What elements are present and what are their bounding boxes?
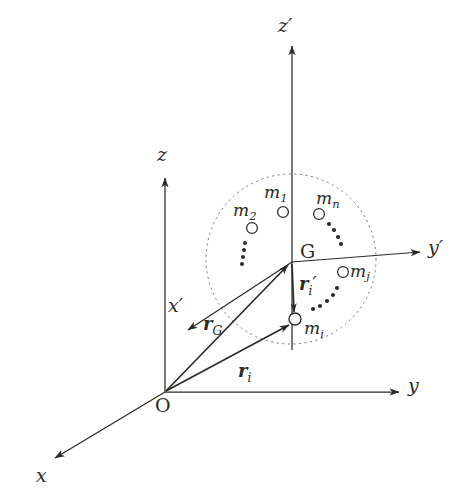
mass-label-mn: mn	[316, 190, 340, 211]
vector-label-r-G: rG	[203, 315, 222, 337]
ellipsis-vertical-left	[240, 241, 247, 266]
axis-label-x-prime-mark: ′	[179, 294, 183, 316]
axis-label-z-prime-mark: ′	[288, 14, 292, 36]
mass-label-mj: mj	[350, 263, 370, 280]
vector-label-r-G-sub: G	[212, 324, 222, 338]
mass-label-m1: m1	[264, 184, 287, 205]
axis-label-z-prime: z′	[278, 16, 292, 35]
vector-label-r-i-prime: ri′	[299, 275, 317, 297]
vector-label-r-i-prime-mark: ′	[312, 273, 316, 294]
axis-label-y: y	[408, 376, 419, 395]
mass-label-mn-sub: n	[332, 197, 339, 211]
mass-label-mj-sub: j	[366, 269, 370, 283]
axis-x	[55, 392, 165, 458]
mass-label-mi-base: m	[304, 318, 320, 338]
vector-r-G	[166, 265, 288, 391]
axis-label-z: z	[157, 145, 167, 164]
mass-label-m2: m2	[233, 202, 256, 223]
vector-label-r-i-sub: i	[247, 371, 251, 385]
axis-label-x: x	[36, 466, 47, 485]
vector-r-i	[166, 325, 289, 391]
mass-label-m1-sub: 1	[280, 191, 287, 205]
axis-label-y-prime-mark: ′	[439, 236, 443, 258]
point-label-center-of-mass: G	[300, 242, 315, 261]
axis-label-x-prime: x′	[168, 296, 183, 315]
axis-label-z-prime-base: z	[278, 14, 288, 36]
physics-diagram-figure: z y x z′ y′ x′ O G m1 m2 mn mj mi rG ri …	[0, 0, 471, 499]
mass-label-mi: mi	[304, 320, 324, 341]
axis-label-x-prime-base: x	[168, 294, 179, 316]
mass-marker-m1	[278, 207, 289, 218]
mass-label-m2-base: m	[233, 200, 249, 220]
axis-label-y-prime-base: y	[428, 236, 439, 258]
mass-marker-mj	[338, 267, 349, 278]
axis-label-y-prime: y′	[428, 238, 443, 257]
point-label-origin: O	[155, 396, 171, 415]
mass-marker-mi	[289, 313, 301, 325]
mass-label-mj-base: m	[350, 261, 366, 281]
diagram-canvas	[0, 0, 471, 499]
ellipsis-arc-upper-right	[327, 222, 343, 246]
mass-label-m2-sub: 2	[249, 209, 256, 223]
mass-label-m1-base: m	[264, 182, 280, 202]
mass-label-mi-sub: i	[320, 327, 324, 341]
vector-label-r-i: ri	[238, 362, 251, 384]
mass-label-mn-base: m	[316, 188, 332, 208]
mass-marker-m2	[247, 223, 258, 234]
